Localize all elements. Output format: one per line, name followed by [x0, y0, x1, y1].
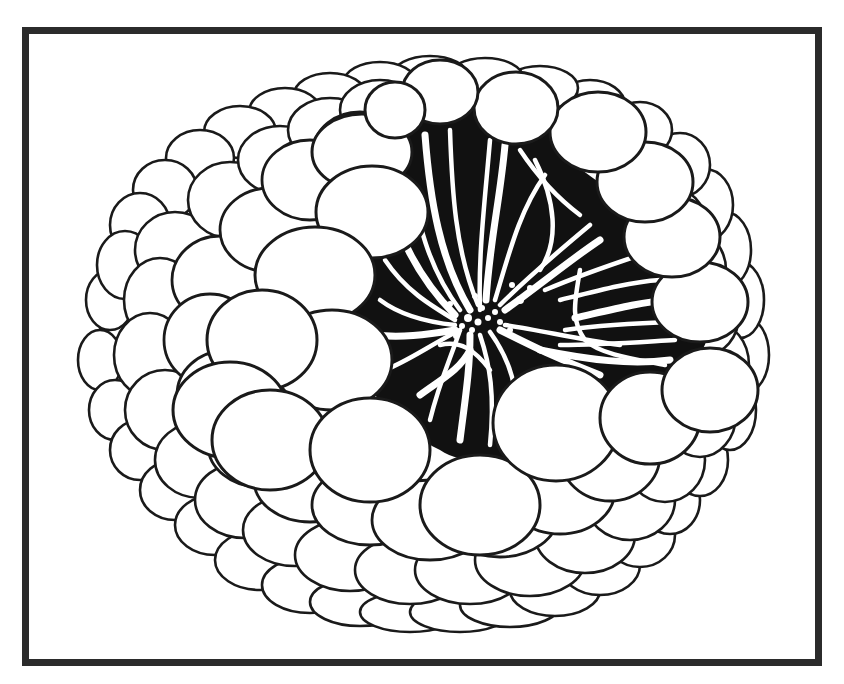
- figure-frame: [22, 27, 822, 666]
- figure-canvas: [0, 0, 844, 684]
